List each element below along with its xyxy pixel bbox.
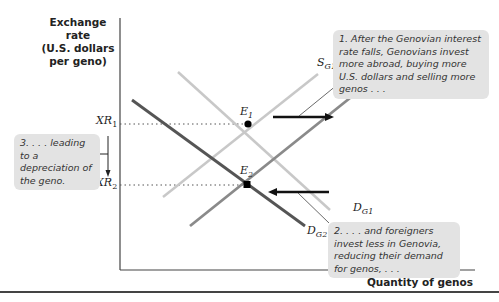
callout-three: 3. . . . leading to a depreciation of th…	[14, 134, 100, 190]
label-e1: E1	[240, 105, 253, 120]
y-axis-label-line: rate	[28, 29, 128, 42]
y-axis-label-line: Exchange	[28, 16, 128, 29]
label-dg2: DG2	[307, 224, 327, 239]
callout-two-leader	[298, 193, 329, 223]
tick-xr1: XR1	[96, 114, 117, 129]
y-axis-label: Exchange rate (U.S. dollars per geno)	[28, 16, 128, 68]
demand-shift-arrowhead	[268, 188, 277, 196]
label-e2: E2	[240, 164, 253, 179]
y-axis-label-line: (U.S. dollars	[28, 42, 128, 55]
label-dg1: DG1	[353, 201, 373, 216]
callout-one: 1. After the Genovian interest rate fall…	[333, 30, 489, 99]
equilibrium-e1-dot	[244, 120, 251, 127]
equilibrium-e2-dot	[244, 181, 251, 188]
y-axis-label-line: per geno)	[28, 55, 128, 68]
callout-two: 2. . . . and foreigners invest less in G…	[328, 222, 460, 278]
